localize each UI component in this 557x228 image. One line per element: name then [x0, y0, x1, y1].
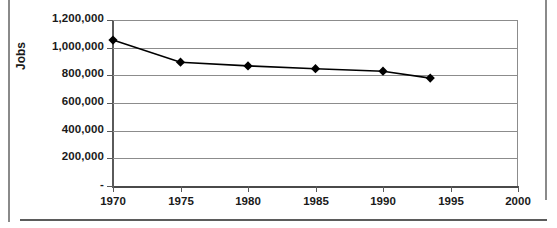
x-axis-tick-label: 1985: [286, 195, 346, 207]
chart-figure: Jobs -200,000400,000600,000800,0001,000,…: [0, 0, 557, 228]
x-axis-tick: [113, 186, 114, 192]
page-rule-right: [545, 0, 547, 200]
x-axis-tick: [518, 186, 519, 192]
y-axis-tick-label: 1,000,000: [52, 40, 104, 52]
y-axis-tick-label: 600,000: [62, 95, 104, 107]
y-axis-tick: [107, 75, 113, 76]
x-axis-tick-label: 1980: [218, 195, 278, 207]
x-axis-tick-label: 2000: [488, 195, 548, 207]
x-axis-tick-label: 1995: [421, 195, 481, 207]
data-point-marker: [176, 58, 185, 67]
y-axis-tick-labels: -200,000400,000600,000800,0001,000,0001,…: [0, 0, 104, 228]
x-axis-tick: [316, 186, 317, 192]
x-axis-tick: [181, 186, 182, 192]
x-axis-tick-label: 1990: [353, 195, 413, 207]
y-axis-tick-label: 400,000: [62, 123, 104, 135]
gridline-y: [113, 48, 518, 49]
series-line: [113, 40, 430, 78]
y-axis-tick: [107, 48, 113, 49]
gridline-y: [113, 20, 518, 21]
x-axis-tick-label: 1975: [151, 195, 211, 207]
x-axis-tick-label: 1970: [83, 195, 143, 207]
y-axis-tick-label: -: [100, 178, 104, 190]
data-point-marker: [311, 64, 320, 73]
y-axis-tick: [107, 131, 113, 132]
x-axis-tick: [451, 186, 452, 192]
y-axis-tick-label: 800,000: [62, 67, 104, 79]
y-axis-tick-label: 200,000: [62, 150, 104, 162]
y-axis-tick: [107, 158, 113, 159]
y-axis-tick: [107, 20, 113, 21]
data-point-marker: [243, 61, 252, 70]
y-axis-line: [112, 20, 114, 188]
y-axis-tick: [107, 103, 113, 104]
gridline-y: [113, 131, 518, 132]
gridline-y: [113, 75, 518, 76]
x-axis-tick: [383, 186, 384, 192]
gridline-y: [113, 103, 518, 104]
y-axis-tick-label: 1,200,000: [52, 12, 104, 24]
gridline-y: [113, 158, 518, 159]
x-axis-tick: [248, 186, 249, 192]
